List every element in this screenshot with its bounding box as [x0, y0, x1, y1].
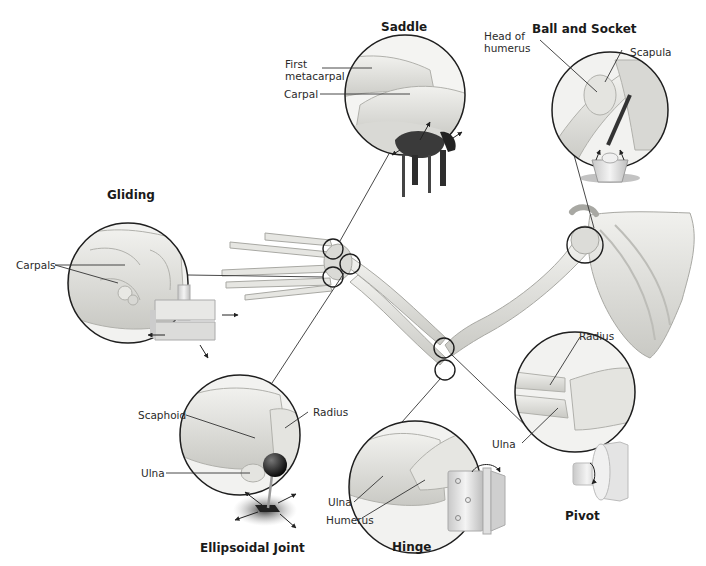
radius-bone [345, 258, 446, 345]
ulna-pivot-label: Ulna [492, 438, 516, 450]
ball-socket-title: Ball and Socket [532, 22, 637, 36]
door-hinge-model-icon [448, 465, 505, 535]
joint-diagram [0, 0, 706, 566]
ulna-bone [350, 275, 446, 365]
ulna-ellipsoidal-label: Ulna [141, 467, 165, 479]
saddle-title: Saddle [381, 20, 427, 34]
carpal-label: Carpal [284, 88, 318, 100]
gliding-title: Gliding [107, 188, 155, 202]
scaphoid-label: Scaphoid [138, 409, 186, 421]
scapula-label: Scapula [630, 46, 672, 58]
hinge-title: Hinge [392, 540, 431, 554]
humerus-hinge-label: Humerus [326, 514, 374, 526]
head-of-humerus-label: Head of humerus [484, 30, 530, 54]
ulna-hinge-label: Ulna [328, 496, 352, 508]
gliding-inset [55, 223, 238, 358]
ball-socket-inset [540, 40, 680, 183]
hinge-locator [435, 360, 455, 380]
pivot-inset [515, 332, 640, 501]
arm-skeleton [222, 207, 694, 380]
carpals-label: Carpals [16, 259, 56, 271]
first-metacarpal-label: First metacarpal [285, 58, 345, 82]
radius-pivot-label: Radius [579, 330, 614, 342]
hinge-inset [349, 421, 505, 553]
ellipsoidal-inset [166, 375, 310, 528]
ellipsoidal-title: Ellipsoidal Joint [200, 541, 305, 555]
pivot-title: Pivot [565, 509, 600, 523]
radius-ellipsoidal-label: Radius [313, 406, 348, 418]
